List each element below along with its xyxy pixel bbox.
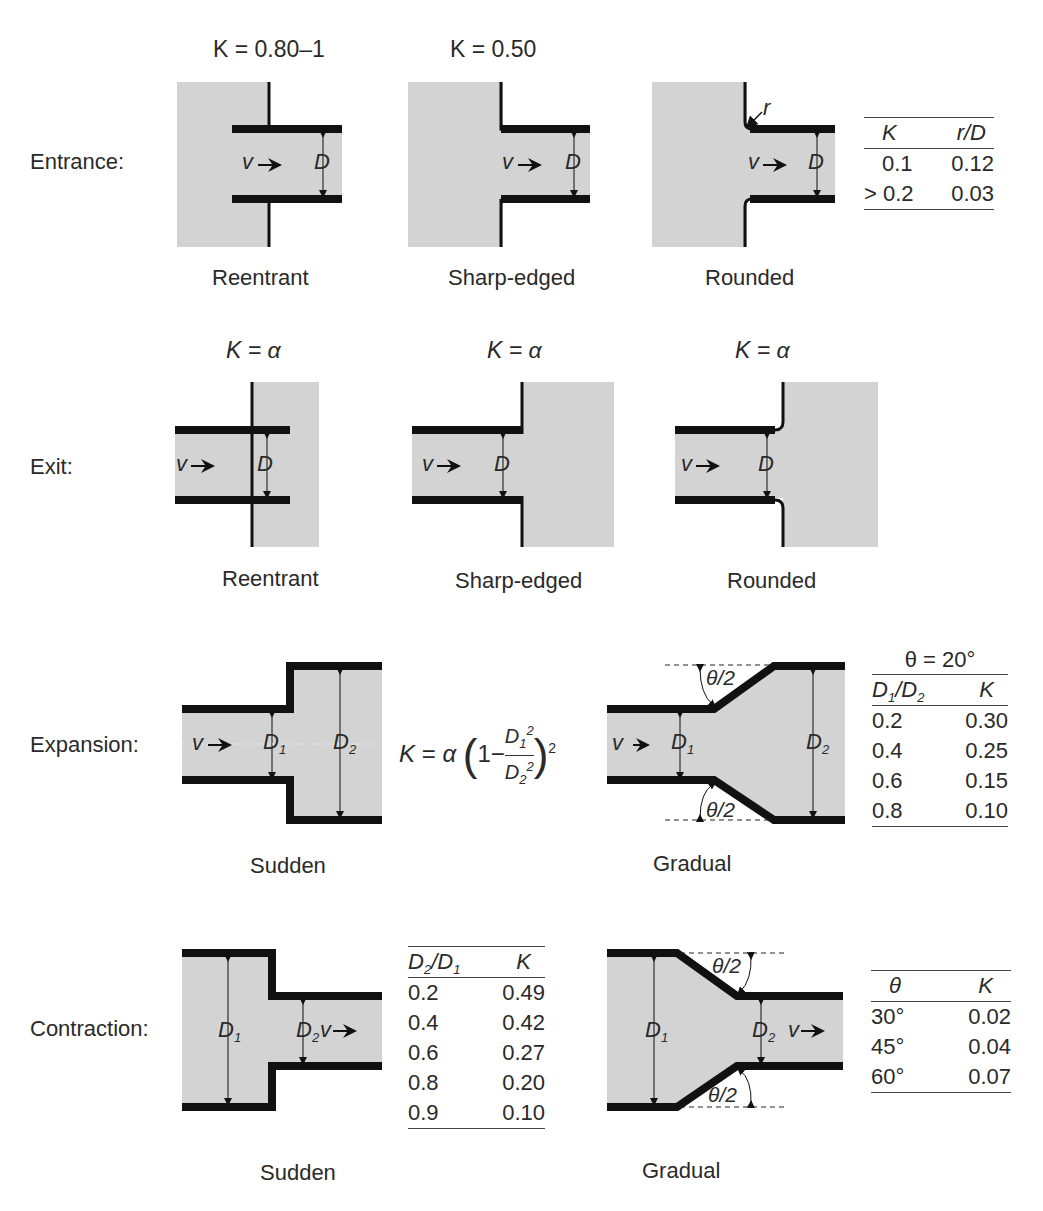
symbol-D2: D2 — [806, 729, 829, 757]
exit-reentrant-k: K = α — [226, 337, 281, 364]
entrance-sharp-name: Sharp-edged — [448, 265, 575, 291]
exit-sharp-name: Sharp-edged — [455, 568, 582, 594]
symbol-half-angle: θ/2 — [712, 954, 741, 978]
entrance-sharp-k: K = 0.50 — [450, 36, 536, 63]
symbol-D: D — [565, 149, 581, 175]
symbol-D: D — [314, 149, 330, 175]
symbol-v: v — [320, 1017, 331, 1043]
symbol-v: v — [422, 451, 433, 477]
symbol-D: D — [494, 451, 510, 477]
symbol-D: D — [808, 149, 824, 175]
symbol-D1: D1 — [645, 1017, 668, 1045]
symbol-D1: D1 — [671, 729, 694, 757]
symbol-D2: D2 — [296, 1017, 319, 1045]
expansion-gradual-table: θ = 20° D1/D2K 0.20.30 0.40.25 0.60.15 0… — [872, 646, 1008, 827]
symbol-half-angle: θ/2 — [706, 666, 735, 690]
entrance-reentrant-k: K = 0.80–1 — [213, 36, 325, 63]
row-label-exit: Exit: — [30, 454, 73, 480]
contraction-sudden-table: D2/D1K 0.20.49 0.40.42 0.60.27 0.80.20 0… — [408, 946, 545, 1129]
symbol-D1: D1 — [218, 1017, 241, 1045]
entrance-rounded-table: Kr/D 0.10.12 > 0.20.03 — [864, 117, 994, 210]
symbol-v: v — [788, 1017, 799, 1043]
entrance-rounded-name: Rounded — [705, 265, 794, 291]
expansion-sudden-name: Sudden — [250, 853, 326, 879]
table-title: θ = 20° — [872, 646, 1008, 674]
symbol-v: v — [176, 451, 187, 477]
entrance-sharp-figure — [408, 82, 590, 247]
expansion-sudden-formula: K = α (1−D12D22)2 — [399, 720, 556, 790]
table-cell: > 0.2 — [864, 179, 914, 209]
symbol-D1: D1 — [263, 729, 286, 757]
contraction-gradual-table: θK 30°0.02 45°0.04 60°0.07 — [871, 970, 1011, 1093]
symbol-v: v — [612, 730, 623, 756]
exit-sharp-figure — [412, 382, 614, 547]
symbol-half-angle: θ/2 — [706, 798, 735, 822]
row-label-contraction: Contraction: — [30, 1016, 149, 1042]
symbol-v: v — [502, 149, 513, 175]
symbol-v: v — [242, 149, 253, 175]
symbol-v: v — [748, 149, 759, 175]
expansion-gradual-name: Gradual — [653, 851, 731, 877]
row-label-expansion: Expansion: — [30, 732, 139, 758]
contraction-gradual-name: Gradual — [642, 1158, 720, 1184]
table-cell: 0.1 — [864, 149, 913, 179]
entrance-reentrant-name: Reentrant — [212, 265, 309, 291]
exit-reentrant-figure — [175, 382, 319, 547]
symbol-D2: D2 — [752, 1017, 775, 1045]
exit-sharp-k: K = α — [487, 337, 542, 364]
row-label-entrance: Entrance: — [30, 149, 124, 175]
table-header: K — [864, 118, 897, 148]
exit-rounded-k: K = α — [735, 337, 790, 364]
symbol-D: D — [257, 451, 273, 477]
table-cell: 0.03 — [951, 179, 994, 209]
symbol-v: v — [681, 451, 692, 477]
exit-reentrant-name: Reentrant — [222, 566, 319, 592]
symbol-v: v — [192, 730, 203, 756]
symbol-D2: D2 — [333, 729, 356, 757]
table-header: r/D — [957, 118, 994, 148]
symbol-D: D — [758, 451, 774, 477]
contraction-sudden-name: Sudden — [260, 1160, 336, 1186]
table-cell: 0.12 — [951, 149, 994, 179]
exit-rounded-name: Rounded — [727, 568, 816, 594]
symbol-half-angle: θ/2 — [708, 1083, 737, 1107]
exit-rounded-figure — [675, 382, 878, 547]
symbol-r: r — [763, 95, 770, 121]
